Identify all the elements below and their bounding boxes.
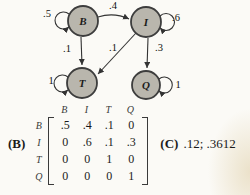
matrix-row-labels: B I T Q [31, 117, 46, 185]
matrix-cell-q-t: 0 [98, 168, 120, 185]
figure-canvas: B I T Q .5 .4 .6 .1 .1 .3 1 1 (B) B I T … [0, 0, 250, 195]
answer-group: (C) .12; .3612 [160, 136, 235, 152]
figure-label-c: (C) [160, 136, 178, 152]
matrix-cell-t-q: 0 [120, 151, 142, 168]
col-header-t: T [97, 103, 119, 117]
node-b-label: B [78, 15, 86, 27]
edge-b-self-loop [55, 12, 69, 29]
matrix-cell-b-i: .4 [76, 117, 98, 134]
state-diagram: B I T Q .5 .4 .6 .1 .1 .3 1 1 [0, 0, 250, 102]
edge-t-self-loop [54, 75, 68, 92]
matrix-cell-q-q: 1 [120, 168, 142, 185]
edge-label-b-self: .5 [43, 8, 51, 19]
matrix-cell-i-i: .6 [76, 134, 98, 151]
edge-label-b-to-t: .1 [63, 43, 71, 54]
matrix-cell-b-b: .5 [54, 117, 76, 134]
matrix-right-bracket [142, 117, 148, 185]
matrix-cell-b-t: .1 [98, 117, 120, 134]
edge-label-i-to-q: .3 [155, 42, 163, 53]
col-header-i: I [75, 103, 97, 117]
row-label-q: Q [31, 168, 46, 185]
matrix-cell-i-q: .3 [120, 134, 142, 151]
col-header-b: B [53, 103, 75, 117]
edge-i-to-q [147, 38, 148, 68]
node-q-label: Q [142, 79, 150, 91]
matrix-cell-t-i: 0 [76, 151, 98, 168]
edge-label-q-self: 1 [175, 79, 180, 90]
row-label-i: I [31, 134, 46, 151]
edge-b-to-i [98, 15, 129, 19]
row-label-t: T [31, 151, 46, 168]
edge-i-to-t [98, 33, 136, 74]
matrix-cell-t-t: 1 [98, 151, 120, 168]
matrix-cell-i-t: .1 [98, 134, 120, 151]
matrix-cell-b-q: 0 [120, 117, 142, 134]
matrix-cells: .5 .4 .1 0 0 .6 .1 .3 0 0 1 0 0 0 0 1 [54, 117, 142, 185]
matrix-cell-q-b: 0 [54, 168, 76, 185]
edge-label-i-self: .6 [172, 12, 180, 23]
edge-b-to-t [81, 37, 82, 65]
figure-label-b: (B) [8, 136, 25, 152]
edge-label-i-to-t: .1 [109, 42, 117, 53]
edge-q-self-loop [159, 77, 172, 93]
matrix-col-headers: B I T Q [53, 103, 148, 117]
matrix-figure-row: (B) B I T Q B I T Q .5 .4 .1 [8, 103, 236, 185]
edge-label-b-to-i: .4 [109, 0, 118, 11]
matrix-cell-t-b: 0 [54, 151, 76, 168]
matrix-cell-i-b: 0 [54, 134, 76, 151]
transition-matrix: B I T Q B I T Q .5 .4 .1 0 0 [31, 103, 148, 185]
row-label-b: B [31, 117, 46, 134]
col-header-q: Q [119, 103, 141, 117]
matrix-body: B I T Q .5 .4 .1 0 0 .6 .1 .3 0 0 [31, 117, 148, 185]
matrix-cell-q-i: 0 [76, 168, 98, 185]
edge-label-t-self: 1 [48, 75, 53, 86]
answer-value: .12; .3612 [183, 136, 235, 152]
node-i-label: I [143, 16, 149, 28]
